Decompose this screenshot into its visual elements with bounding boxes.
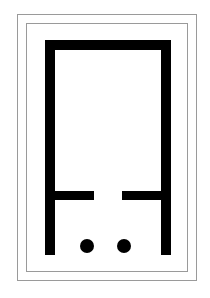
left-dot xyxy=(80,239,94,253)
left-stub xyxy=(55,191,94,200)
glyph-figure xyxy=(0,0,210,298)
right-stub xyxy=(122,191,161,200)
right-dot xyxy=(117,239,131,253)
right-leg xyxy=(161,40,171,255)
top-bar xyxy=(45,40,171,50)
left-leg xyxy=(45,40,55,255)
